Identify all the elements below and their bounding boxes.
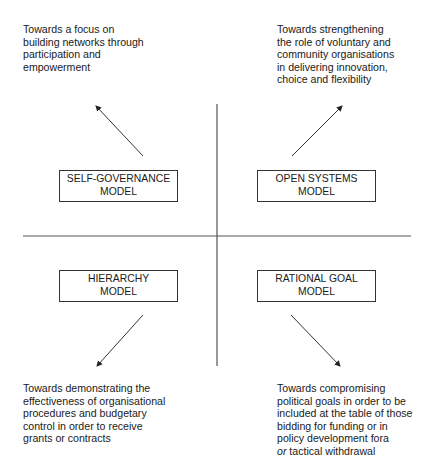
hierarchy-model-box: HIERARCHY MODEL [59, 270, 178, 302]
model-label: MODEL [100, 286, 137, 299]
description-line: the role of voluntary and [277, 36, 394, 49]
description-line: bidding for funding or in [277, 420, 412, 433]
arrow-up-left-icon [96, 106, 143, 156]
model-label: RATIONAL GOAL [275, 273, 358, 286]
arrow-down-left-icon [97, 315, 143, 366]
model-label: MODEL [298, 286, 335, 299]
description-line: empowerment [23, 61, 144, 74]
description-line: grants or contracts [23, 432, 165, 445]
model-label: MODEL [298, 186, 335, 199]
model-label: HIERARCHY [88, 273, 149, 286]
rational-goal-description: Towards compromising political goals in … [277, 382, 412, 458]
description-line: or tactical withdrawal [277, 445, 412, 458]
self-governance-model-box: SELF-GOVERNANCE MODEL [59, 170, 178, 202]
model-label: SELF-GOVERNANCE [67, 173, 170, 186]
self-governance-description: Towards a focus on building networks thr… [23, 23, 144, 73]
open-systems-model-box: OPEN SYSTEMS MODEL [257, 170, 376, 202]
description-line: Towards compromising [277, 382, 412, 395]
description-line: effectiveness of organisational [23, 395, 165, 408]
model-label: OPEN SYSTEMS [276, 173, 358, 186]
italic-or: or [277, 445, 286, 457]
rational-goal-model-box: RATIONAL GOAL MODEL [257, 270, 376, 302]
description-line: control in order to receive [23, 420, 165, 433]
description-line: participation and [23, 48, 144, 61]
open-systems-description: Towards strengthening the role of volunt… [277, 23, 394, 86]
description-line: building networks through [23, 36, 144, 49]
description-line: Towards a focus on [23, 23, 144, 36]
description-line: community organisations [277, 48, 394, 61]
description-line-rest: tactical withdrawal [286, 445, 375, 457]
model-label: MODEL [100, 186, 137, 199]
description-line: political goals in order to be [277, 395, 412, 408]
description-line: choice and flexibility [277, 73, 394, 86]
description-line: Towards demonstrating the [23, 382, 165, 395]
description-line: in delivering innovation, [277, 61, 394, 74]
hierarchy-description: Towards demonstrating the effectiveness … [23, 382, 165, 445]
description-line: included at the table of those [277, 407, 412, 420]
description-line: procedures and budgetary [23, 407, 165, 420]
arrow-up-right-icon [292, 106, 342, 156]
description-line: policy development fora [277, 432, 412, 445]
description-line: Towards strengthening [277, 23, 394, 36]
arrow-down-right-icon [291, 315, 340, 366]
